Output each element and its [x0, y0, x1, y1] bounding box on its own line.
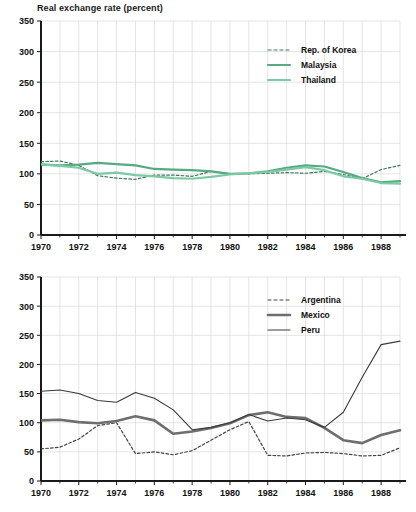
y-tick-label: 300 [19, 47, 34, 57]
x-tick-label: 1974 [107, 488, 127, 498]
figure-root: Real exchange rate (percent) 35030025020… [0, 0, 416, 512]
series-line [41, 341, 400, 430]
y-tick-label: 50 [24, 200, 34, 210]
x-tick-label: 1978 [182, 242, 202, 252]
y-tick-label: 0 [29, 476, 34, 486]
y-tick-label: 100 [19, 418, 34, 428]
x-tick-label: 1976 [144, 488, 164, 498]
y-tick-label: 100 [19, 169, 34, 179]
legend-label: Malaysia [301, 60, 337, 70]
chart-latam-canvas: 3503002502001501005001970197219741976197… [0, 256, 416, 512]
x-tick-label: 1982 [258, 242, 278, 252]
y-tick-label: 250 [19, 78, 34, 88]
chart-asia-canvas: 3503002502001501005001970197219741976197… [0, 0, 416, 256]
chart-latam: 3503002502001501005001970197219741976197… [0, 256, 416, 512]
x-tick-label: 1988 [371, 488, 391, 498]
chart-asia: Real exchange rate (percent) 35030025020… [0, 0, 416, 256]
y-tick-label: 350 [19, 272, 34, 282]
y-tick-label: 200 [19, 108, 34, 118]
x-tick-label: 1970 [31, 242, 51, 252]
x-tick-label: 1982 [258, 488, 278, 498]
x-tick-label: 1986 [333, 488, 353, 498]
y-tick-label: 200 [19, 360, 34, 370]
legend-label: Rep. of Korea [301, 45, 357, 55]
x-tick-label: 1984 [296, 242, 316, 252]
x-tick-label: 1972 [69, 242, 89, 252]
x-tick-label: 1986 [333, 242, 353, 252]
y-tick-label: 300 [19, 302, 34, 312]
legend-label: Peru [301, 325, 320, 335]
legend-label: Argentina [301, 295, 341, 305]
x-tick-label: 1976 [144, 242, 164, 252]
y-tick-label: 150 [19, 139, 34, 149]
y-tick-label: 150 [19, 389, 34, 399]
y-tick-label: 350 [19, 16, 34, 26]
x-tick-label: 1974 [107, 242, 127, 252]
y-tick-label: 50 [24, 447, 34, 457]
y-tick-label: 250 [19, 331, 34, 341]
chart-title: Real exchange rate (percent) [37, 3, 163, 13]
x-tick-label: 1980 [220, 488, 240, 498]
x-tick-label: 1988 [371, 242, 391, 252]
legend-label: Mexico [301, 310, 330, 320]
x-tick-label: 1970 [31, 488, 51, 498]
y-tick-label: 0 [29, 230, 34, 240]
x-tick-label: 1984 [296, 488, 316, 498]
legend-label: Thailand [301, 75, 336, 85]
x-tick-label: 1978 [182, 488, 202, 498]
x-tick-label: 1980 [220, 242, 240, 252]
x-tick-label: 1972 [69, 488, 89, 498]
